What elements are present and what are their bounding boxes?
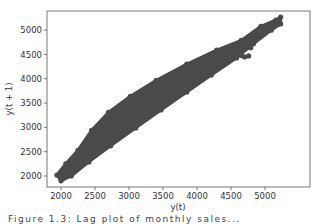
outlier-marker <box>246 53 251 58</box>
x-tick-label: 3000 <box>118 191 140 201</box>
y-tick-label: 2500 <box>20 147 42 157</box>
scatter-marker <box>128 94 133 99</box>
y-axis-ticks: 2000250030003500400045005000 <box>20 25 47 181</box>
scatter-marker <box>214 48 219 53</box>
x-axis-ticks: 2000250030003500400045005000 <box>50 187 276 201</box>
y-tick-label: 3500 <box>20 98 42 108</box>
scatter-marker <box>89 128 94 133</box>
outlier-marker <box>215 58 220 63</box>
scatter-marker <box>86 159 91 164</box>
scatter-marker <box>209 72 214 77</box>
scatter-marker <box>269 28 274 33</box>
scatter-marker <box>154 78 159 83</box>
scatter-marker <box>133 125 138 130</box>
x-axis-label: y(t) <box>171 202 186 212</box>
scatter-marker <box>258 24 263 29</box>
scatter-marker <box>58 178 63 183</box>
y-axis-label: y(t + 1) <box>4 83 14 116</box>
x-tick-label: 2000 <box>50 191 72 201</box>
scatter-marker <box>239 38 244 43</box>
outlier-marker <box>248 45 253 50</box>
scatter-marker <box>108 143 113 148</box>
lag-plot-chart: 2000250030003500400045005000 20002500300… <box>0 0 321 224</box>
scatter-marker <box>273 17 278 22</box>
scatter-marker <box>278 21 283 26</box>
x-tick-label: 3500 <box>152 191 174 201</box>
scatter-points <box>54 14 283 183</box>
scatter-marker <box>69 173 74 178</box>
scatter-point-cloud <box>57 17 281 181</box>
scatter-marker <box>184 89 189 94</box>
scatter-marker <box>278 14 283 19</box>
x-tick-label: 2500 <box>84 191 106 201</box>
scatter-marker <box>184 62 189 67</box>
scatter-marker <box>63 161 68 166</box>
figure-caption: Figure 1.3: Lag plot of monthly sales... <box>8 214 241 224</box>
x-tick-label: 4500 <box>220 191 242 201</box>
scatter-marker <box>75 148 80 153</box>
scatter-marker <box>234 55 239 60</box>
scatter-marker <box>158 107 163 112</box>
scatter-marker <box>106 110 111 115</box>
outlier-marker <box>239 53 244 58</box>
y-tick-label: 4000 <box>20 74 42 84</box>
scatter-marker <box>54 172 59 177</box>
y-tick-label: 4500 <box>20 50 42 60</box>
y-tick-label: 5000 <box>20 25 42 35</box>
y-tick-label: 3000 <box>20 122 42 132</box>
x-tick-label: 5000 <box>254 191 276 201</box>
x-tick-label: 4000 <box>186 191 208 201</box>
y-tick-label: 2000 <box>20 171 42 181</box>
